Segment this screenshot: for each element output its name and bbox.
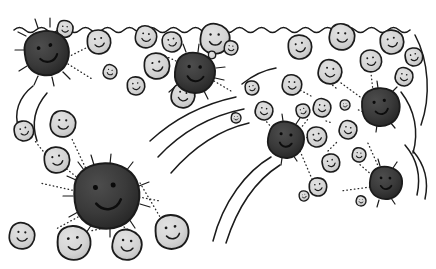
light-blob — [340, 100, 351, 111]
light-blob — [308, 177, 327, 197]
light-blob — [126, 76, 145, 96]
light-blob — [298, 190, 309, 201]
illustration-canvas — [0, 0, 436, 269]
light-blob — [231, 113, 242, 124]
light-blob — [56, 225, 91, 261]
light-blob — [355, 195, 366, 206]
dark-blob — [369, 166, 403, 201]
blob-scene-svg — [0, 0, 436, 269]
